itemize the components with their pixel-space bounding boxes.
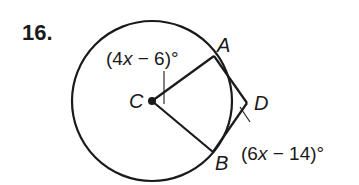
point-label-a: A <box>217 35 230 55</box>
leader-line-exterior <box>240 107 250 122</box>
exterior-angle-suffix: − 14)° <box>267 143 324 164</box>
central-angle-label: (4x − 6)° <box>106 49 179 68</box>
segment-cb <box>152 101 213 152</box>
central-angle-suffix: − 6)° <box>132 48 178 69</box>
exterior-angle-var: x <box>258 143 268 164</box>
segment-ad <box>214 56 247 103</box>
central-angle-var: x <box>123 48 133 69</box>
diagram-stage: 16. (4x − 6)° (6x − 14)° A B C D <box>0 0 359 185</box>
problem-number: 16. <box>22 22 53 44</box>
point-label-b: B <box>215 153 228 173</box>
point-label-d: D <box>254 93 268 113</box>
central-angle-prefix: (4 <box>106 48 123 69</box>
center-point <box>148 97 156 105</box>
point-label-c: C <box>129 91 143 111</box>
exterior-angle-prefix: (6 <box>241 143 258 164</box>
exterior-angle-label: (6x − 14)° <box>241 144 324 163</box>
